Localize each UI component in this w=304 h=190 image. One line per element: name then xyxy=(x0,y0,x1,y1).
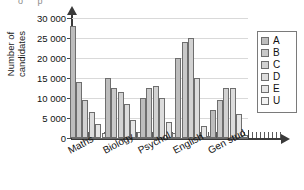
legend-swatch xyxy=(261,37,269,45)
legend-item: E xyxy=(261,83,296,95)
legend-item-label: C xyxy=(273,60,280,70)
legend-swatch xyxy=(261,97,269,105)
legend-swatch xyxy=(261,85,269,93)
x-category-label: English xyxy=(171,131,205,156)
legend-item-label: A xyxy=(273,36,280,46)
legend-item-label: U xyxy=(273,96,280,106)
legend-item: B xyxy=(261,47,296,59)
legend-item-label: B xyxy=(273,48,280,58)
x-category-label: Biology xyxy=(101,131,135,156)
legend-item: D xyxy=(261,71,296,83)
legend-swatch xyxy=(261,61,269,69)
legend-swatch xyxy=(261,73,269,81)
legend-swatch xyxy=(261,49,269,57)
legend-item-label: D xyxy=(273,72,280,82)
legend-item: U xyxy=(261,95,296,107)
x-category-label: Maths xyxy=(66,133,95,155)
legend-item: A xyxy=(261,35,296,47)
x-category-label: Gen stud xyxy=(206,127,247,156)
legend-item-label: E xyxy=(273,84,280,94)
x-category-label: Psychol xyxy=(136,130,172,156)
bar-chart: o p Number of candidates 05 00010 00015 … xyxy=(0,0,304,190)
legend: ABCDEU xyxy=(257,31,297,113)
legend-item: C xyxy=(261,59,296,71)
